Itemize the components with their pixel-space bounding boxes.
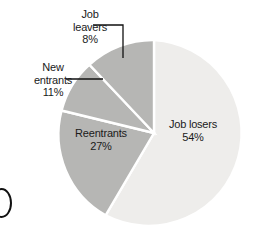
slice-label-job-leavers-line2: leavers [62, 21, 118, 34]
slice-label-new-entrants-line2: entrants [14, 74, 92, 87]
slice-label-reentrants-value: 27% [62, 140, 140, 153]
slice-label-job-losers: Job losers 54% [157, 118, 229, 143]
slice-label-new-entrants-line1: New [14, 61, 92, 74]
slice-label-job-leavers: Job leavers 8% [62, 8, 118, 46]
slice-label-job-leavers-value: 8% [62, 33, 118, 46]
slice-label-new-entrants-value: 11% [14, 86, 92, 99]
slice-label-reentrants: Reentrants 27% [62, 127, 140, 152]
slice-label-job-losers-line1: Job losers [157, 118, 229, 131]
slice-label-reentrants-line1: Reentrants [62, 127, 140, 140]
slice-label-job-leavers-line1: Job [62, 8, 118, 21]
slice-label-job-losers-value: 54% [157, 131, 229, 144]
pie-chart-figure: Job leavers 8% New entrants 11% Reentran… [0, 0, 261, 235]
slice-label-new-entrants: New entrants 11% [14, 61, 92, 99]
